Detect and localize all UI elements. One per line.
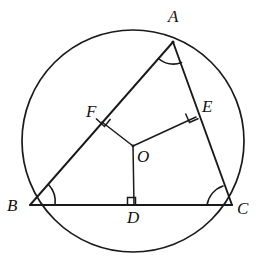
point-label-D: D [127,209,139,226]
point-label-C: C [237,200,248,217]
radius-OE [133,117,196,146]
radius-OD [133,146,134,205]
point-label-E: E [202,98,212,115]
point-label-B: B [7,197,17,214]
geometry-diagram: A B C O D E F [0,0,260,260]
radius-OF [102,122,133,146]
angle-arc-B [49,185,56,206]
point-label-A: A [168,8,178,25]
angle-arc-A [159,59,182,65]
vertex-dot-A [171,40,174,43]
point-label-F: F [86,103,96,120]
angle-arc-C [207,186,223,205]
vertex-dot-O [132,145,135,148]
point-label-O: O [137,148,149,165]
